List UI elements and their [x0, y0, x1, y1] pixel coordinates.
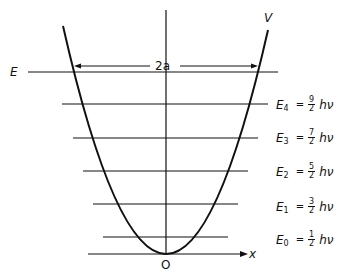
denominator: 2: [309, 172, 314, 180]
level-label-E0: E0=12hν: [276, 231, 333, 248]
unit: hν: [319, 165, 333, 179]
unit: hν: [319, 233, 333, 247]
level-label-E2: E2=52hν: [276, 163, 333, 180]
fraction: 92: [308, 96, 315, 113]
denominator: 2: [309, 138, 314, 146]
level-label-E4: E4=92hν: [276, 96, 333, 113]
level-subscript: 4: [284, 104, 289, 113]
equals-sign: =: [296, 166, 304, 177]
equals-sign: =: [296, 99, 304, 110]
level-symbol: E: [276, 165, 284, 179]
x-axis-arrow-icon: [240, 251, 248, 257]
unit: hν: [319, 131, 333, 145]
level-subscript: 0: [284, 239, 289, 248]
x-axis-label: x: [249, 248, 256, 260]
level-symbol: E: [276, 98, 284, 112]
width-label: 2a: [155, 60, 170, 72]
denominator: 2: [309, 207, 314, 215]
level-symbol: E: [276, 233, 284, 247]
level-subscript: 2: [284, 171, 289, 180]
fraction: 52: [308, 163, 315, 180]
fraction: 12: [308, 231, 315, 248]
level-subscript: 3: [284, 137, 289, 146]
level-symbol: E: [276, 200, 284, 214]
energy-label: E: [10, 66, 18, 78]
level-label-E3: E3=72hν: [276, 129, 333, 146]
level-label-E1: E1=32hν: [276, 198, 333, 215]
origin-label: O: [161, 259, 170, 271]
arrowhead-left-icon: [74, 64, 81, 69]
level-subscript: 1: [284, 206, 289, 215]
level-symbol: E: [276, 131, 284, 145]
unit: hν: [319, 98, 333, 112]
fraction: 72: [308, 129, 315, 146]
equals-sign: =: [296, 132, 304, 143]
fraction: 32: [308, 198, 315, 215]
arrowhead-right-icon: [251, 64, 258, 69]
denominator: 2: [309, 240, 314, 248]
unit: hν: [319, 200, 333, 214]
equals-sign: =: [296, 234, 304, 245]
denominator: 2: [309, 105, 314, 113]
equals-sign: =: [296, 201, 304, 212]
potential-label: V: [264, 12, 272, 24]
